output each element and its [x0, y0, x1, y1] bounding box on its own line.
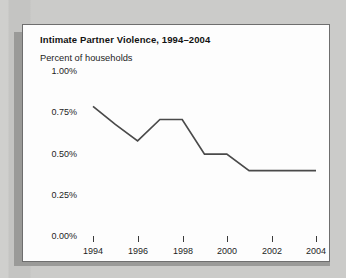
- x-axis-label-3: 1998: [166, 246, 200, 256]
- x-axis-tick-4: [227, 236, 228, 242]
- chart-figure: Intimate Partner Violence, 1994–2004 Per…: [0, 0, 346, 278]
- x-axis-tick-2: [138, 236, 139, 242]
- chart-card: Intimate Partner Violence, 1994–2004 Per…: [22, 24, 330, 262]
- x-axis-label-5: 2002: [255, 246, 289, 256]
- series-line-percent-of-households: [23, 25, 331, 263]
- plot-area: 1.00% 0.75% 0.50% 0.25% 0.00% 1994 1996 …: [23, 25, 331, 263]
- x-axis-tick-1: [93, 236, 94, 242]
- x-axis-label-1: 1994: [76, 246, 110, 256]
- x-axis-label-6: 2004: [299, 246, 333, 256]
- x-axis-tick-5: [272, 236, 273, 242]
- x-axis-label-2: 1996: [121, 246, 155, 256]
- x-axis-tick-3: [183, 236, 184, 242]
- x-axis-label-4: 2000: [210, 246, 244, 256]
- x-axis-tick-6: [316, 236, 317, 242]
